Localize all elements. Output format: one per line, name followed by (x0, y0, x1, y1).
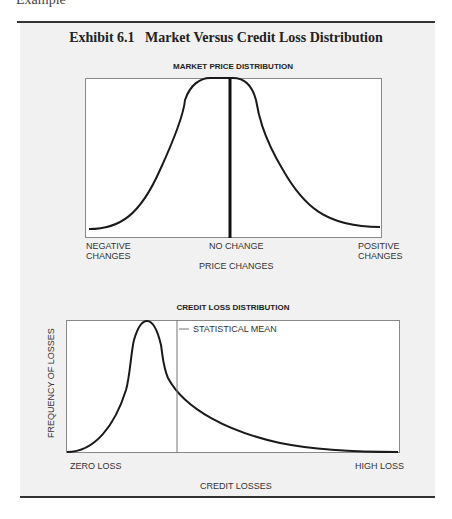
market-plot-frame (86, 79, 382, 238)
credit-plot-frame (67, 321, 400, 453)
positive-label-line2: CHANGES (358, 251, 403, 261)
credit-chart-title: CREDIT LOSS DISTRIBUTION (0, 303, 452, 312)
negative-label-line1: NEGATIVE (86, 241, 131, 251)
market-xaxis-label: PRICE CHANGES (199, 261, 274, 271)
credit-label-high-loss: HIGH LOSS (355, 461, 404, 471)
market-label-no-change: NO CHANGE (209, 241, 264, 251)
credit-yaxis-label: FREQUENCY OF LOSSES (46, 328, 56, 438)
negative-label-line2: CHANGES (86, 251, 131, 261)
credit-label-zero-loss: ZERO LOSS (70, 461, 122, 471)
credit-xaxis-label: CREDIT LOSSES (200, 481, 272, 491)
market-label-positive: POSITIVE CHANGES (358, 241, 403, 261)
statistical-mean-label: STATISTICAL MEAN (193, 324, 277, 334)
market-label-negative: NEGATIVE CHANGES (86, 241, 131, 261)
positive-label-line1: POSITIVE (358, 241, 403, 251)
